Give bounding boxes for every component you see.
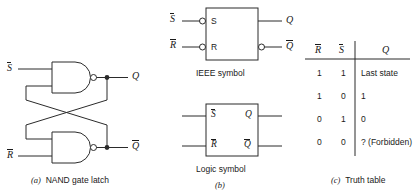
truth-table-row: 0 <box>317 138 322 147</box>
caption-panel-c: (c) Truth table <box>331 176 386 185</box>
truth-table-row: ? (Forbidden) <box>361 138 412 147</box>
truth-table-row: 1 <box>317 92 322 101</box>
truth-table-row: 1 <box>341 69 346 78</box>
title-ieee-symbol: IEEE symbol <box>196 69 245 78</box>
ieee-r-input-bubble <box>200 44 206 50</box>
figure-nand-latch: S R Q Q (a) NAND gate latch S R S R Q Q … <box>0 0 417 196</box>
label-ieee-r-pin: R <box>211 43 217 52</box>
truth-table-row: 0 <box>317 115 322 124</box>
nand-gate-bottom <box>52 132 97 163</box>
truth-table-header-q: Q <box>382 45 389 55</box>
label-logic-rbar-pin: R <box>211 140 217 150</box>
truth-table-row: 0 <box>341 138 346 147</box>
truth-table-row: 1 <box>361 92 366 101</box>
title-logic-symbol: Logic symbol <box>196 165 246 174</box>
truth-table-header-rbar: R <box>315 45 321 55</box>
truth-table-row: 1 <box>317 69 322 78</box>
truth-table-row: Last state <box>361 69 398 78</box>
ieee-s-input-bubble <box>200 18 206 24</box>
label-ieee-q-external: Q <box>286 15 293 25</box>
label-logic-qbar-pin: Q <box>244 140 251 150</box>
label-ieee-qbar-external: Q <box>286 41 293 51</box>
label-ieee-rbar-external: R <box>170 40 176 50</box>
label-logic-sbar-pin: S <box>211 110 216 120</box>
label-rbar-input: R <box>7 150 13 160</box>
truth-table-row: 0 <box>341 92 346 101</box>
label-ieee-sbar-external: S <box>170 14 175 24</box>
ieee-qbar-output-bubble <box>259 44 265 50</box>
label-sbar-input: S <box>7 63 12 73</box>
label-q-output: Q <box>132 71 139 81</box>
truth-table-row: 0 <box>361 115 366 124</box>
truth-table-header-sbar: S <box>339 45 344 55</box>
caption-panel-a: (a) NAND gate latch <box>31 176 109 185</box>
caption-panel-b: (b) <box>215 181 225 190</box>
truth-table-row: 1 <box>341 115 346 124</box>
label-ieee-s-pin: S <box>211 17 217 26</box>
nand-gate-top <box>52 62 97 93</box>
label-logic-q-pin: Q <box>245 110 252 120</box>
label-qbar-output: Q <box>132 141 139 151</box>
